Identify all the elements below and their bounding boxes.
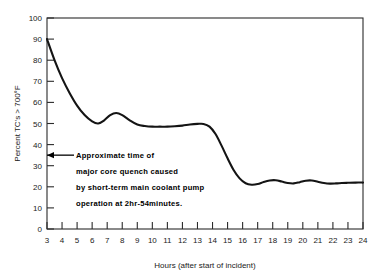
y-tick-label: 20 [33, 183, 42, 192]
x-tick-label: 21 [313, 236, 322, 245]
x-axis-title: Hours (after start of incident) [154, 261, 256, 270]
x-tick-label: 24 [359, 236, 368, 245]
x-tick-label: 17 [253, 236, 262, 245]
annotation-line-4: operation at 2hr-54minutes. [76, 199, 182, 208]
annotation-line-2: major core quench caused [76, 167, 178, 176]
x-tick-label: 16 [238, 236, 247, 245]
y-tick-label: 30 [33, 162, 42, 171]
x-tick-label: 14 [208, 236, 217, 245]
x-tick-label: 8 [120, 236, 125, 245]
y-tick-label: 50 [33, 120, 42, 129]
x-tick-label: 6 [90, 236, 95, 245]
x-tick-label: 13 [193, 236, 202, 245]
y-tick-label: 60 [33, 98, 42, 107]
x-tick-label: 15 [223, 236, 232, 245]
y-axis-title: Percent TC's > 700°F [13, 85, 22, 162]
x-tick-label: 20 [298, 236, 307, 245]
annotation-line-3: by short-term main coolant pump [76, 183, 205, 192]
y-tick-label: 40 [33, 141, 42, 150]
x-tick-label: 23 [343, 236, 352, 245]
y-tick-label: 10 [33, 204, 42, 213]
annotation-line-1: Approximate time of [76, 151, 154, 160]
y-tick-label: 100 [29, 14, 43, 23]
y-tick-label: 90 [33, 35, 42, 44]
x-tick-label: 7 [105, 236, 110, 245]
x-tick-label: 19 [283, 236, 292, 245]
x-tick-label: 22 [328, 236, 337, 245]
x-tick-label: 11 [163, 236, 172, 245]
chart-figure: 0102030405060708090100 34567891011121314… [0, 0, 392, 278]
x-tick-label: 4 [60, 236, 65, 245]
x-tick-label: 3 [45, 236, 50, 245]
y-tick-label: 70 [33, 77, 42, 86]
x-tick-label: 10 [148, 236, 157, 245]
x-tick-label: 18 [268, 236, 277, 245]
y-tick-label: 80 [33, 56, 42, 65]
chart-svg: 0102030405060708090100 34567891011121314… [0, 0, 392, 278]
x-tick-label: 12 [178, 236, 187, 245]
x-tick-label: 5 [75, 236, 80, 245]
x-tick-label: 9 [135, 236, 140, 245]
y-tick-label: 0 [38, 225, 43, 234]
